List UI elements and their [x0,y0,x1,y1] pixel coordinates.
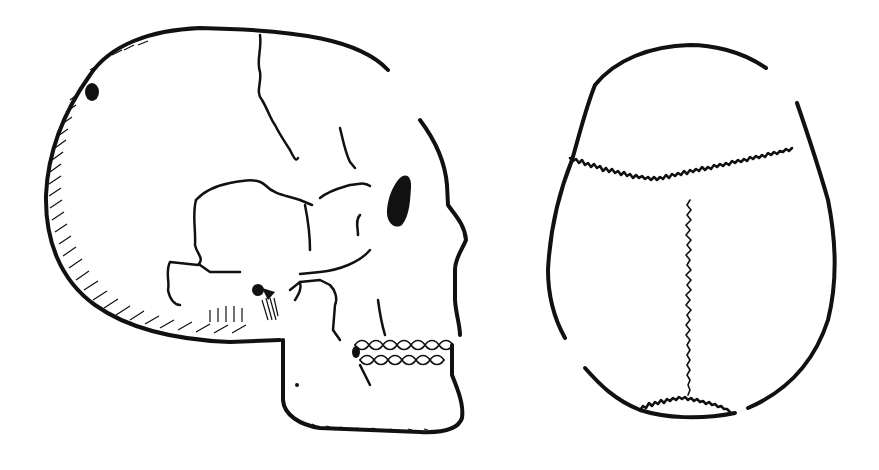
lateral-skull [46,28,466,432]
skull-illustration [0,0,879,470]
teeth [355,341,453,365]
orbit [387,176,411,227]
superior-skull [548,45,835,417]
illustration-canvas [0,0,879,470]
